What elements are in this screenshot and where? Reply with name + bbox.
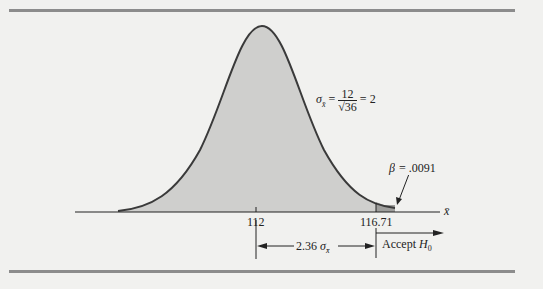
critical-tick-label: 116.71: [360, 216, 393, 228]
distance-label: 2.36 σx̄: [296, 240, 329, 255]
accept-h0-label: Accept H0: [382, 238, 432, 253]
sigma-formula: σx̄ = 12 √36 = 2: [316, 88, 376, 113]
accept-h: H: [419, 237, 428, 251]
distance-value: 2.36: [296, 239, 317, 253]
beta-arrowhead: [396, 197, 402, 205]
accept-text: Accept: [382, 237, 416, 251]
accept-arrowhead: [433, 230, 444, 236]
mean-tick-label: 112: [247, 216, 265, 228]
sampling-distribution-plot: [0, 0, 543, 289]
beta-pointer: [399, 174, 409, 200]
bell-curve-area: [118, 26, 395, 212]
distance-arrowhead-left: [257, 243, 267, 249]
beta-value: = .0091: [395, 161, 436, 175]
sigma-denominator: √36: [338, 101, 357, 113]
x-bar-axis-label: x̄: [444, 205, 449, 217]
sigma-equals: =: [328, 92, 335, 106]
distance-sigma-subscript: x̄: [326, 246, 330, 255]
distance-arrowhead-right: [365, 243, 375, 249]
sigma-result: = 2: [360, 92, 376, 106]
beta-label: β = .0091: [389, 162, 436, 174]
sigma-fraction: 12 √36: [338, 88, 357, 113]
sigma-subscript: x̄: [322, 100, 326, 109]
accept-h-subscript: 0: [428, 244, 432, 253]
